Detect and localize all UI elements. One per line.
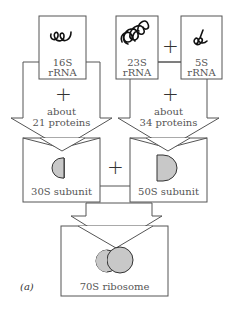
figure-label: (a) <box>20 281 34 292</box>
label-5s-rrna: rRNA <box>181 67 222 78</box>
label-21-proteins: 21 proteins <box>23 117 100 128</box>
label-left-about: about <box>23 106 100 117</box>
label-70s-ribosome: 70S ribosome <box>61 281 168 292</box>
plus-right-arrow: + <box>162 84 179 104</box>
plus-rrna-operator: + <box>162 36 179 56</box>
plus-left-arrow: + <box>55 84 72 104</box>
plus-subunit-operator: + <box>107 157 124 177</box>
label-23s-rrna: rRNA <box>116 67 158 78</box>
label-30s-subunit: 30S subunit <box>23 186 100 197</box>
label-right-about: about <box>130 106 207 117</box>
ribosome-70s-shape-icon <box>96 247 133 273</box>
label-34-proteins: 34 proteins <box>130 117 207 128</box>
label-16s-rrna: rRNA <box>39 67 86 78</box>
label-50s-subunit: 50S subunit <box>130 186 207 197</box>
